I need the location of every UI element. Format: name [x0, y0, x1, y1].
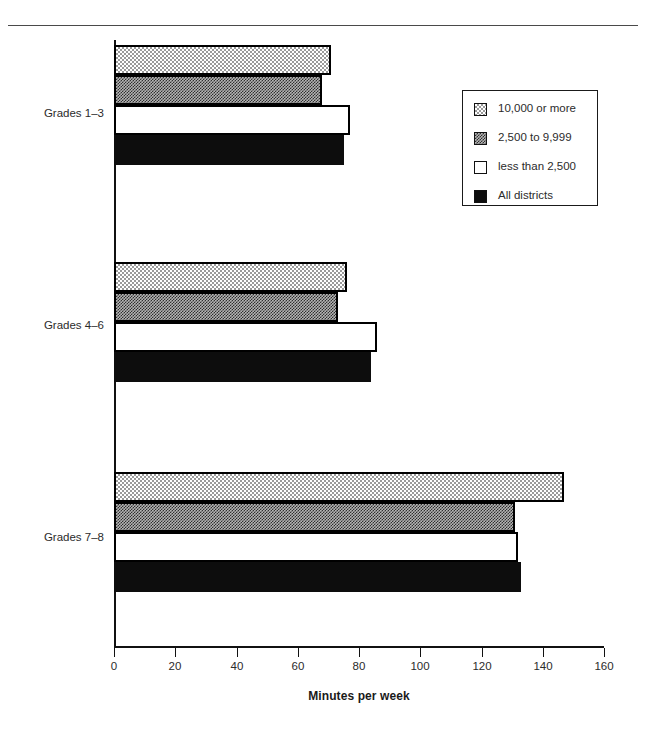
x-tick-label-120: 120 [462, 660, 502, 672]
bar-grades-4-6-all-districts [114, 352, 371, 382]
bar-grades-4-6-10000-or-more [114, 262, 347, 292]
x-tick-100 [420, 648, 421, 657]
legend-swatch-dark-checkerboard-icon [474, 132, 487, 145]
legend-label-10000-or-more: 10,000 or more [498, 102, 576, 114]
top-divider-rule [8, 25, 638, 26]
x-tick-label-140: 140 [523, 660, 563, 672]
bar-grades-1-3-2500-to-9999 [114, 75, 322, 105]
bar-grades-1-3-10000-or-more [114, 45, 331, 75]
x-tick-120 [482, 648, 483, 657]
bar-grades-7-8-2500-to-9999 [114, 502, 515, 532]
x-tick-140 [543, 648, 544, 657]
legend-label-all-districts: All districts [498, 189, 553, 201]
bar-grades-7-8-less-than-2500 [114, 532, 518, 562]
x-axis-title: Minutes per week [114, 689, 604, 703]
legend-swatch-white-icon [474, 161, 487, 174]
bar-grades-1-3-less-than-2500 [114, 105, 350, 135]
bar-grades-1-3-all-districts [114, 135, 344, 165]
x-tick-40 [237, 648, 238, 657]
legend-label-2500-to-9999: 2,500 to 9,999 [498, 131, 572, 143]
group-label-grades-7-8: Grades 7–8 [4, 531, 104, 543]
legend: 10,000 or more 2,500 to 9,999 less than … [462, 90, 598, 206]
x-tick-0 [114, 648, 115, 657]
x-tick-label-0: 0 [94, 660, 134, 672]
legend-swatch-solid-black-icon [474, 190, 487, 203]
x-tick-label-40: 40 [217, 660, 257, 672]
bar-grades-7-8-all-districts [114, 562, 521, 592]
x-tick-label-80: 80 [339, 660, 379, 672]
x-tick-label-60: 60 [278, 660, 318, 672]
group-label-grades-4-6: Grades 4–6 [4, 319, 104, 331]
x-tick-80 [359, 648, 360, 657]
bar-grades-7-8-10000-or-more [114, 472, 564, 502]
legend-swatch-light-checkerboard-icon [474, 103, 487, 116]
x-tick-60 [298, 648, 299, 657]
x-tick-160 [604, 648, 605, 657]
x-tick-label-160: 160 [584, 660, 624, 672]
group-label-grades-1-3: Grades 1–3 [4, 107, 104, 119]
bar-grades-4-6-less-than-2500 [114, 322, 377, 352]
x-tick-label-100: 100 [400, 660, 440, 672]
x-tick-20 [175, 648, 176, 657]
bar-chart-figure: 0 20 40 60 80 100 120 140 160 Minutes pe… [0, 0, 646, 738]
legend-label-less-than-2500: less than 2,500 [498, 160, 576, 172]
bar-grades-4-6-2500-to-9999 [114, 292, 338, 322]
x-tick-label-20: 20 [155, 660, 195, 672]
